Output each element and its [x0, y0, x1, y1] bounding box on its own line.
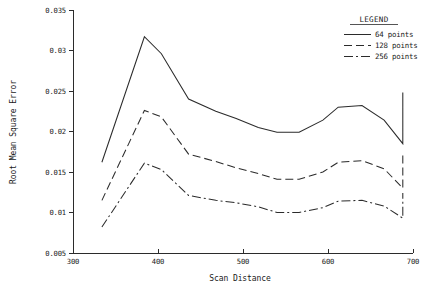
x-axis: 300400500600700 [67, 249, 419, 266]
x-tick-label: 600 [322, 257, 334, 266]
series-line-1 [102, 110, 403, 200]
x-tick-label: 500 [237, 257, 249, 266]
series-line-0 [102, 37, 403, 163]
y-tick-label: 0.015 [45, 168, 66, 177]
x-tick-label: 700 [407, 257, 419, 266]
legend-title: LEGEND [359, 15, 388, 24]
y-tick-label: 0.005 [45, 249, 66, 258]
legend: LEGEND64 points128 points256 points [344, 15, 418, 61]
chart-container: 0.0050.010.0150.020.0250.030.035 3004005… [0, 0, 431, 286]
legend-label-0: 64 points [375, 30, 413, 39]
y-tick-label: 0.035 [45, 6, 66, 15]
legend-label-1: 128 points [375, 41, 418, 50]
series-lines [102, 37, 403, 227]
legend-label-2: 256 points [375, 52, 418, 61]
x-axis-title: Scan Distance [209, 274, 271, 283]
y-tick-label: 0.02 [49, 127, 66, 136]
x-tick-label: 400 [152, 257, 164, 266]
line-chart: 0.0050.010.0150.020.0250.030.035 3004005… [0, 0, 431, 286]
x-tick-label: 300 [67, 257, 79, 266]
y-tick-label: 0.025 [45, 87, 66, 96]
y-axis-title: Root Mean Square Error [9, 80, 18, 184]
series-line-2 [102, 163, 403, 227]
y-axis: 0.0050.010.0150.020.0250.030.035 [45, 6, 73, 258]
y-tick-label: 0.01 [49, 208, 66, 217]
y-tick-label: 0.03 [49, 46, 66, 55]
